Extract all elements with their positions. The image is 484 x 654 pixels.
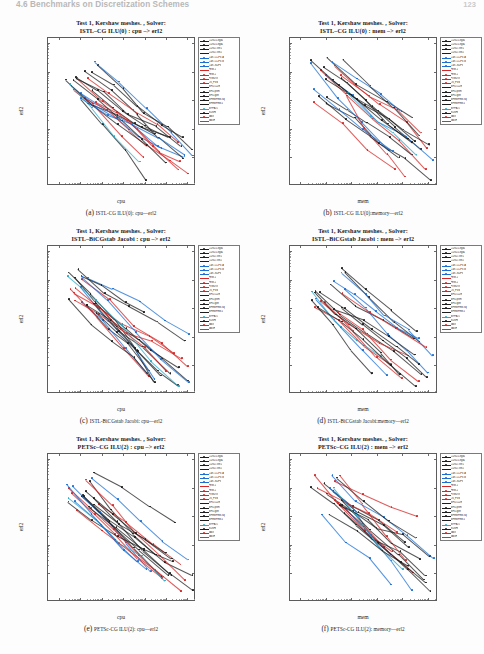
x-minor-tick xyxy=(410,391,411,392)
y-minor-tick xyxy=(48,133,49,134)
y-minor-tick xyxy=(290,340,291,341)
x-minor-tick xyxy=(389,599,390,600)
series-line xyxy=(134,357,156,383)
running-header-title: 4.6 Benchmarks on Discretization Schemes xyxy=(16,0,189,9)
x-minor-tick xyxy=(418,183,419,184)
plot-title-line2: ISTL–CG ILU(0) : mem –> erl2 xyxy=(320,28,406,34)
y-axis-label: erl2 xyxy=(18,315,24,324)
y-minor-tick xyxy=(290,328,291,329)
x-minor-tick xyxy=(172,599,173,600)
x-tick xyxy=(145,182,146,184)
x-minor-tick xyxy=(133,391,134,392)
x-tick xyxy=(351,182,352,184)
y-minor-tick xyxy=(48,503,49,504)
x-tick xyxy=(402,38,403,40)
y-minor-tick xyxy=(48,489,49,490)
legend-item[interactable]: VAGH xyxy=(200,327,239,331)
plot-axes xyxy=(47,37,195,185)
x-minor-tick xyxy=(389,391,390,392)
plot-title-line1: Test 1, Kershaw meshes. , Solver: xyxy=(318,228,408,234)
y-tick xyxy=(192,308,194,309)
y-minor-tick xyxy=(48,300,49,301)
x-tick xyxy=(428,598,429,600)
y-minor-tick xyxy=(48,528,49,529)
y-minor-tick xyxy=(48,105,49,106)
y-minor-tick xyxy=(290,52,291,53)
x-minor-tick xyxy=(414,183,415,184)
legend-item[interactable]: VAGH xyxy=(442,119,481,123)
legend-item[interactable]: VAGH xyxy=(200,535,239,539)
x-minor-tick xyxy=(363,391,364,392)
data-point xyxy=(415,385,417,387)
x-tick xyxy=(377,182,378,184)
y-tick xyxy=(192,545,194,546)
y-minor-tick xyxy=(290,489,291,490)
x-minor-tick xyxy=(367,599,368,600)
data-point xyxy=(182,158,184,160)
x-minor-tick xyxy=(176,183,177,184)
x-tick xyxy=(428,246,429,248)
y-minor-tick xyxy=(48,310,49,311)
plot-legend: CDG2-Legd1CDG2-Legd2CDG2-Tetr1CDG2-Tetr2… xyxy=(198,453,240,541)
y-minor-tick xyxy=(290,357,291,358)
y-minor-tick xyxy=(48,107,49,108)
plot-title: Test 1, Kershaw meshes. , Solver:ISTL–Bi… xyxy=(0,228,242,243)
legend-item[interactable]: VAGH xyxy=(442,535,481,539)
y-minor-tick xyxy=(290,523,291,524)
y-tick xyxy=(192,365,194,366)
data-point xyxy=(419,558,421,560)
plot-title-line1: Test 1, Kershaw meshes. , Solver: xyxy=(76,20,166,26)
y-minor-tick xyxy=(48,132,49,133)
y-minor-tick xyxy=(290,548,291,549)
legend-marker-icon xyxy=(200,535,209,539)
legend-item-label: VAGH xyxy=(209,119,216,123)
plot-title-line2: PETSc–CG ILU(2) : mem –> erl2 xyxy=(318,444,408,450)
y-tick xyxy=(434,72,436,73)
x-minor-tick xyxy=(338,391,339,392)
x-tick xyxy=(300,38,301,40)
x-minor-tick xyxy=(341,391,342,392)
x-tick xyxy=(402,182,403,184)
legend-item[interactable]: VAGH xyxy=(200,119,239,123)
y-minor-tick xyxy=(290,80,291,81)
x-tick xyxy=(377,38,378,40)
legend-item[interactable]: VAGH xyxy=(442,327,481,331)
y-minor-tick xyxy=(48,58,49,59)
plot-axes xyxy=(47,453,195,601)
y-axis-label: erl2 xyxy=(18,107,24,116)
y-minor-tick xyxy=(48,531,49,532)
y-tick xyxy=(434,488,436,489)
y-minor-tick xyxy=(48,479,49,480)
y-minor-tick xyxy=(290,271,291,272)
x-minor-tick xyxy=(308,183,309,184)
y-minor-tick xyxy=(48,257,49,258)
series-line xyxy=(125,150,146,180)
x-minor-tick xyxy=(410,183,411,184)
series-line xyxy=(407,535,434,559)
x-tick xyxy=(428,390,429,392)
x-minor-tick xyxy=(108,183,109,184)
data-point xyxy=(404,176,406,178)
y-minor-tick xyxy=(290,521,291,522)
data-point xyxy=(390,584,392,586)
data-point xyxy=(188,559,190,561)
y-minor-tick xyxy=(48,52,49,53)
y-minor-tick xyxy=(290,109,291,110)
y-minor-tick xyxy=(48,525,49,526)
x-minor-tick xyxy=(115,391,116,392)
y-minor-tick xyxy=(48,536,49,537)
y-minor-tick xyxy=(48,149,49,150)
x-minor-tick xyxy=(312,391,313,392)
y-minor-tick xyxy=(290,560,291,561)
x-minor-tick xyxy=(194,391,195,392)
y-tick xyxy=(192,573,194,574)
series-line xyxy=(122,487,150,507)
y-tick xyxy=(434,280,436,281)
x-axis-label: mem xyxy=(289,614,437,620)
x-tick xyxy=(123,182,124,184)
y-minor-tick xyxy=(48,286,49,287)
y-minor-tick xyxy=(290,338,291,339)
y-axis-label: erl2 xyxy=(260,523,266,532)
x-minor-tick xyxy=(130,599,131,600)
x-minor-tick xyxy=(194,599,195,600)
